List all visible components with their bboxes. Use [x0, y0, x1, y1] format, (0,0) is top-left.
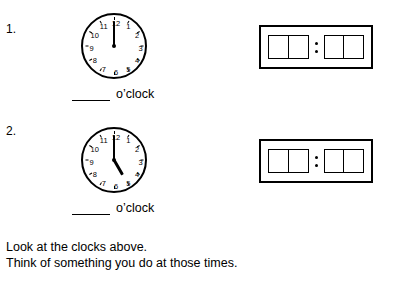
clock-numeral: 9 [87, 44, 97, 53]
digital-colon-1 [313, 42, 320, 53]
digit-cell[interactable] [343, 149, 364, 173]
clock-tick [141, 160, 144, 161]
digital-right-digits-1 [324, 35, 365, 59]
clock-center-dot-2 [112, 158, 116, 162]
clock-numeral: 9 [87, 158, 97, 167]
oclock-label-2: o’clock [116, 202, 154, 215]
digit-cell[interactable] [268, 149, 289, 173]
digit-cell[interactable] [324, 149, 345, 173]
clock-numeral: 8 [90, 56, 100, 65]
digit-cell[interactable] [288, 149, 309, 173]
clock-tick [114, 73, 115, 76]
digit-cell[interactable] [324, 35, 345, 59]
digital-colon-2 [313, 156, 320, 167]
clock-tick [141, 46, 144, 47]
item-number-2: 2. [6, 124, 16, 138]
digit-cell[interactable] [268, 35, 289, 59]
digital-clock-1[interactable] [259, 25, 373, 69]
clock-tick [85, 160, 88, 161]
clock-numeral: 6 [111, 68, 121, 77]
digital-left-digits-2 [268, 149, 309, 173]
answer-row-1: o’clock [72, 88, 154, 101]
analog-clock-2: 121234567891011 [81, 127, 147, 193]
worksheet-page: 1. 121234567891011 o’clock 2. 1212345678… [0, 0, 396, 295]
clock-tick [114, 187, 115, 190]
clock-tick [85, 46, 88, 47]
digit-cell[interactable] [288, 35, 309, 59]
clock-numeral: 1 [123, 136, 133, 145]
digital-right-digits-2 [324, 149, 365, 173]
minute-hand-2 [113, 135, 115, 160]
clock-tick [114, 17, 115, 20]
instruction-line-2: Think of something you do at those times… [6, 256, 237, 271]
minute-hand-1 [113, 21, 115, 46]
answer-blank-2[interactable] [72, 203, 110, 215]
digital-left-digits-1 [268, 35, 309, 59]
oclock-label-1: o’clock [116, 88, 154, 101]
clock-tick [114, 131, 115, 134]
analog-clock-1: 121234567891011 [81, 13, 147, 79]
instruction-line-1: Look at the clocks above. [6, 240, 147, 255]
clock-numeral: 6 [111, 182, 121, 191]
clock-numeral: 8 [90, 170, 100, 179]
digit-cell[interactable] [343, 35, 364, 59]
clock-numeral: 1 [123, 22, 133, 31]
answer-row-2: o’clock [72, 202, 154, 215]
clock-center-dot-1 [112, 44, 116, 48]
answer-blank-1[interactable] [72, 89, 110, 101]
item-number-1: 1. [6, 22, 16, 36]
digital-clock-2[interactable] [259, 139, 373, 183]
